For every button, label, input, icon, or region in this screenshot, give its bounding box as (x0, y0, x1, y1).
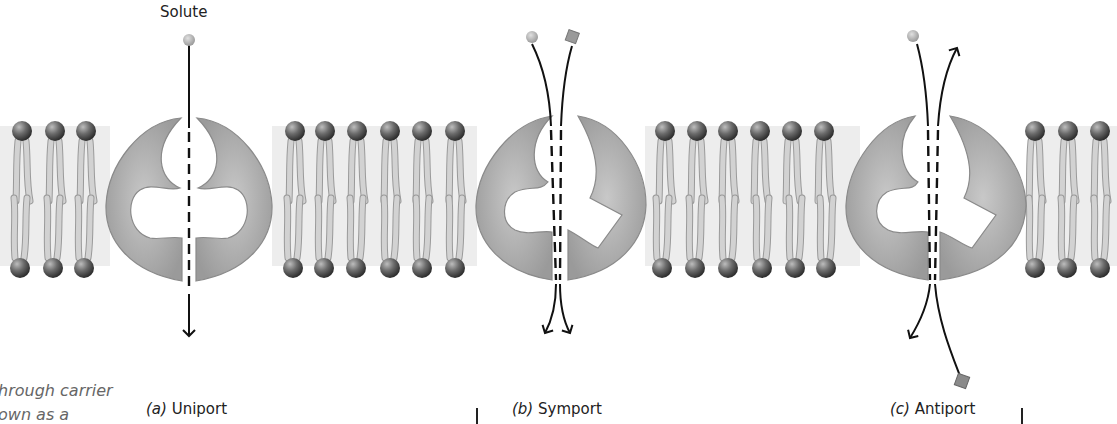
panel-name: Antiport (915, 400, 976, 418)
symport-arrows (532, 44, 572, 333)
panel-letter: (a) (146, 400, 167, 418)
panel-letter: (b) (512, 400, 533, 418)
solute-label: Solute (160, 3, 207, 21)
panel-label-symport: (b) Symport (512, 400, 602, 418)
transport-diagram (0, 0, 1117, 424)
cotransport-square-icon (954, 373, 969, 388)
panel-letter: (c) (890, 400, 910, 418)
panel-label-antiport: (c) Antiport (890, 400, 975, 418)
solute-circle-icon (526, 31, 538, 43)
side-caption-line-2: own as a (0, 405, 69, 424)
solute-circle-icon (183, 34, 195, 46)
cotransport-square-icon (565, 30, 579, 44)
panel-name: Symport (538, 400, 602, 418)
panel-label-uniport: (a) Uniport (146, 400, 227, 418)
side-caption-line-1: hrough carrier (0, 381, 113, 400)
panel-name: Uniport (172, 400, 227, 418)
antiport-arrows (910, 44, 960, 376)
solute-circle-icon (907, 30, 919, 42)
